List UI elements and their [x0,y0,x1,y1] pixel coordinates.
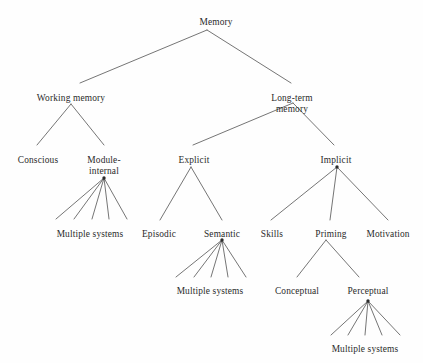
perceptual-junction [366,299,369,302]
implicit-junction [335,165,338,168]
node-conceptual: Conceptual [275,286,319,297]
edge-perceptual-to-perc-multiple [348,301,368,335]
diagram-edges-layer [0,0,423,363]
edge-implicit-to-priming [330,167,337,220]
edge-perceptual-to-perc-multiple [368,301,400,335]
edge-module-internal-to-wm-multiple [74,178,104,219]
edge-semantic-to-sem-multiple [222,240,246,277]
edge-implicit-to-motivation [337,167,388,220]
memory-taxonomy-diagram: MemoryWorking memoryLong-term memoryCons… [0,0,423,363]
edge-module-internal-to-wm-multiple [104,178,109,219]
node-episodic: Episodic [142,229,176,240]
node-implicit: Implicit [321,155,352,166]
edge-explicit-to-episodic [160,167,191,220]
edge-priming-to-conceptual [297,240,326,277]
edge-semantic-to-sem-multiple [176,240,222,277]
edge-implicit-to-skills [271,167,337,220]
node-motivation: Motivation [366,229,409,240]
edge-module-internal-to-wm-multiple [56,178,104,219]
node-module-internal: Module-internal [76,155,132,176]
node-semantic: Semantic [204,229,240,240]
edge-perceptual-to-perc-multiple [365,301,368,335]
node-working-memory: Working memory [37,93,105,104]
node-memory: Memory [199,17,232,28]
edge-perceptual-to-perc-multiple [368,301,382,335]
node-perc-multiple: Multiple systems [332,344,399,355]
edge-memory-to-long-term-memory [207,30,291,83]
edge-module-internal-to-wm-multiple [104,178,127,219]
edge-working-memory-to-conscious [37,104,71,145]
edge-perceptual-to-perc-multiple [331,301,368,335]
node-conscious: Conscious [18,155,58,166]
edge-priming-to-perceptual [326,240,359,277]
edge-semantic-to-sem-multiple [211,240,222,277]
node-wm-multiple: Multiple systems [57,229,124,240]
edge-module-internal-to-wm-multiple [92,178,104,219]
node-skills: Skills [261,229,283,240]
node-long-term-memory: Long-term memory [264,93,320,114]
node-priming: Priming [315,229,346,240]
edge-working-memory-to-module-internal [71,104,104,145]
edge-explicit-to-semantic [191,167,222,220]
module-internal-junction [102,176,105,179]
edge-memory-to-working-memory [80,30,207,83]
node-sem-multiple: Multiple systems [177,286,244,297]
node-explicit: Explicit [179,155,210,166]
edge-semantic-to-sem-multiple [194,240,222,277]
node-perceptual: Perceptual [347,286,388,297]
edge-semantic-to-sem-multiple [222,240,228,277]
